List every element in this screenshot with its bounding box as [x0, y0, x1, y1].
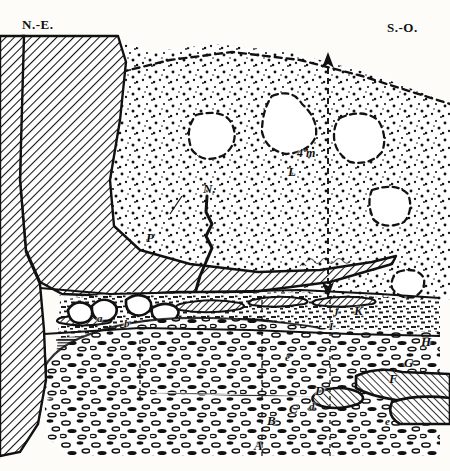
block-lens-3 — [313, 297, 376, 307]
unit-label-L: L — [288, 164, 296, 180]
unit-label-G: G — [404, 355, 413, 371]
boulder-1 — [68, 302, 92, 323]
geological-cross-section-figure: N.-E. S.-O. 4 m L N. P K J I H G F e D d… — [0, 0, 450, 471]
unit-label-e1: e — [285, 351, 290, 363]
block-lens-2 — [249, 297, 308, 307]
compass-label-southwest: S.-O. — [387, 20, 418, 36]
void-outline-3 — [334, 113, 384, 162]
unit-label-N: N. — [203, 181, 216, 197]
unit-label-C: C — [289, 401, 298, 417]
bedrock-block-right-2 — [390, 397, 450, 424]
unit-label-A: A — [254, 438, 263, 454]
unit-label-J: J — [333, 306, 339, 318]
void-outline-4 — [369, 187, 410, 226]
unit-label-a: a — [97, 312, 103, 324]
unit-label-K: K — [354, 303, 363, 319]
unit-label-b: b — [124, 317, 130, 329]
block-lens-1 — [176, 300, 244, 312]
unit-label-H: H — [421, 334, 431, 350]
unit-label-D: D — [315, 383, 324, 399]
compass-label-northeast: N.-E. — [22, 17, 53, 33]
unit-label-I: I — [329, 320, 333, 332]
unit-label-F: F — [389, 371, 398, 387]
boulder-3 — [126, 295, 151, 315]
cross-section-drawing — [0, 0, 450, 471]
dimension-label-4m: 4 m — [297, 146, 315, 161]
unit-label-d: d — [309, 400, 315, 412]
boulder-2 — [92, 300, 117, 321]
unit-label-e2: e — [385, 415, 390, 427]
unit-label-P: P — [146, 230, 154, 246]
unit-label-B: B — [267, 413, 276, 429]
